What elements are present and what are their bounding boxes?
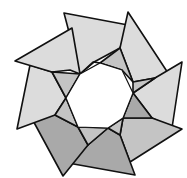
origami-unit-top-left <box>15 28 80 74</box>
origami-ring <box>0 0 187 178</box>
